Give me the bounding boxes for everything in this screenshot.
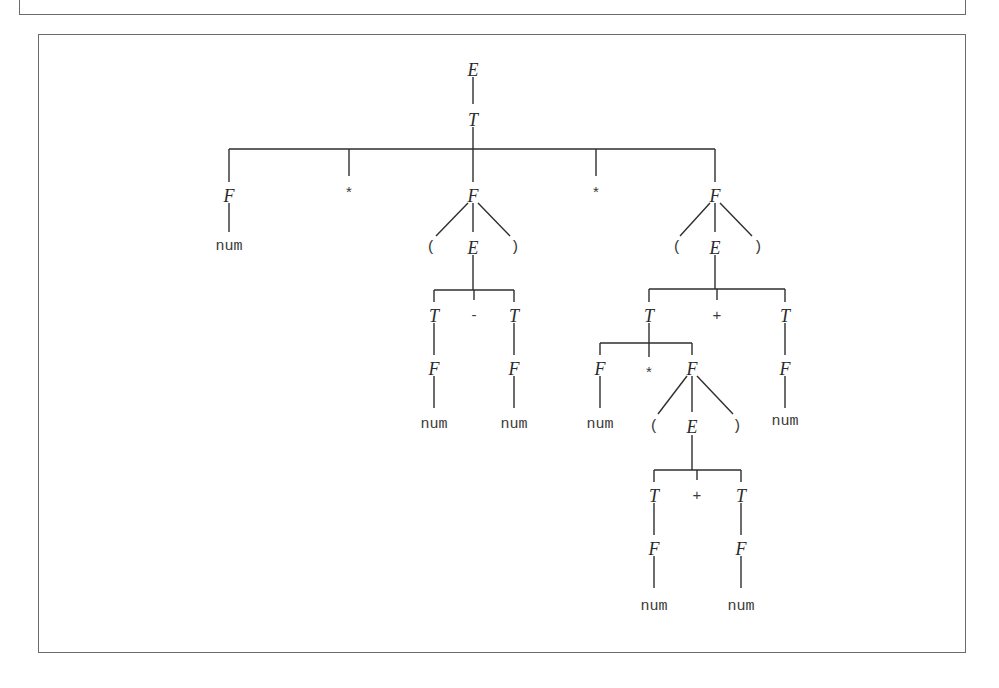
node-T: T <box>649 486 661 506</box>
tree-edges <box>229 77 785 588</box>
node-F: F <box>428 359 441 379</box>
node-F: F <box>709 186 722 206</box>
leaf-num: num <box>420 416 447 433</box>
leaf-plus: + <box>693 486 702 503</box>
leaf-times: * <box>346 183 352 200</box>
node-F: F <box>223 186 236 206</box>
node-F: F <box>686 359 699 379</box>
leaf-num: num <box>771 413 798 430</box>
node-F: F <box>508 359 521 379</box>
leaf-times: * <box>646 363 652 380</box>
node-F: F <box>779 359 792 379</box>
tree-nodes: E T F num * F * F ( E ) T - T F F num nu… <box>215 60 798 615</box>
leaf-lparen: ( <box>649 418 658 435</box>
leaf-times: * <box>593 183 599 200</box>
node-F: F <box>735 539 748 559</box>
node-E: E <box>686 417 698 437</box>
leaf-rparen: ) <box>732 418 741 435</box>
node-T: T <box>509 306 521 326</box>
node-E: E <box>467 238 479 258</box>
node-F: F <box>594 359 607 379</box>
node-E-root: E <box>467 60 479 80</box>
leaf-rparen: ) <box>753 239 762 256</box>
node-E: E <box>709 238 721 258</box>
leaf-num: num <box>640 598 667 615</box>
leaf-rparen: ) <box>510 239 519 256</box>
leaf-lparen: ( <box>672 239 681 256</box>
node-T: T <box>736 486 748 506</box>
leaf-num: num <box>215 238 242 255</box>
node-T: T <box>468 110 480 130</box>
leaf-lparen: ( <box>426 239 435 256</box>
node-T: T <box>644 306 656 326</box>
node-T: T <box>429 306 441 326</box>
parse-tree: E T F num * F * F ( E ) T - T F F num nu… <box>0 0 999 688</box>
node-T: T <box>780 306 792 326</box>
node-F: F <box>467 186 480 206</box>
leaf-plus: + <box>713 306 722 323</box>
node-F: F <box>648 539 661 559</box>
leaf-num: num <box>727 598 754 615</box>
leaf-minus: - <box>472 306 477 323</box>
leaf-num: num <box>586 416 613 433</box>
leaf-num: num <box>500 416 527 433</box>
